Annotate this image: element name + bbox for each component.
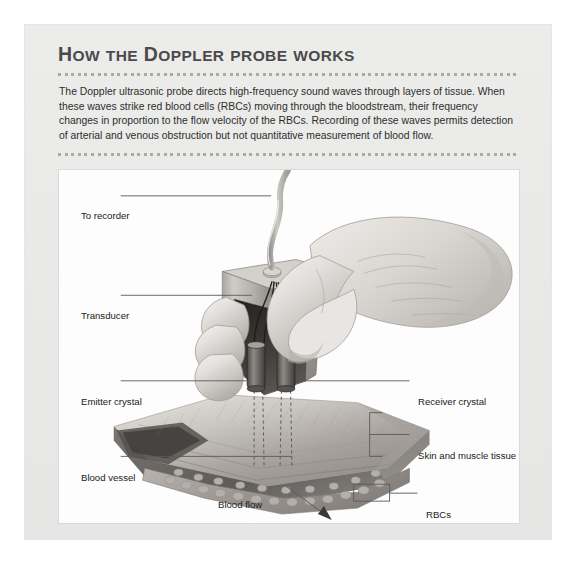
label-to-recorder: To recorder xyxy=(81,211,130,221)
label-blood-flow: Blood flow xyxy=(218,500,262,510)
description-dotted-rule xyxy=(58,153,520,156)
label-rbcs: RBCs xyxy=(426,510,451,520)
figure-description: The Doppler ultrasonic probe directs hig… xyxy=(59,85,517,143)
probe-cord-art xyxy=(268,170,288,267)
figure-title: HOW THE DOPPLER PROBE WORKS xyxy=(58,43,355,66)
label-emitter-crystal: Emitter crystal xyxy=(81,397,142,407)
label-skin-and-muscle: Skin and muscle tissue xyxy=(418,451,516,461)
label-receiver-crystal: Receiver crystal xyxy=(418,397,486,407)
figure-panel: HOW THE DOPPLER PROBE WORKS HOW THE DOPP… xyxy=(24,24,552,540)
illustration-plate: To recorder Transducer Emitter crystal B… xyxy=(58,169,520,524)
doppler-probe-illustration xyxy=(59,170,519,523)
emitter-crystal-art xyxy=(247,342,265,392)
figure-page: HOW THE DOPPLER PROBE WORKS HOW THE DOPP… xyxy=(0,0,578,564)
hand-art xyxy=(195,217,512,401)
label-transducer: Transducer xyxy=(81,311,129,321)
label-blood-vessel: Blood vessel xyxy=(81,473,135,483)
title-dotted-rule xyxy=(58,73,520,76)
